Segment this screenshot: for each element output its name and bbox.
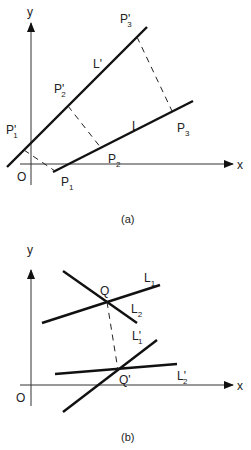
label-L1-prime: L'1 — [132, 329, 143, 346]
label-L1: L1 — [144, 271, 156, 288]
origin-label: O — [16, 391, 25, 405]
label-L: L — [132, 119, 139, 133]
label-P1-prime: P'1 — [6, 123, 18, 140]
label-L2-prime: L'2 — [177, 369, 188, 386]
figure: x y O L' L P1 P2 P3 P'1 P'2 P'3 (a) x y … — [0, 0, 251, 450]
label-L-prime: L' — [93, 57, 102, 71]
caption-b: (b) — [121, 431, 134, 443]
diagram-b: x y O L1 L2 L'1 L'2 Q Q' (b) — [16, 243, 243, 443]
label-Q-prime: Q' — [119, 373, 131, 387]
label-P1: P1 — [61, 175, 74, 192]
origin-label: O — [17, 170, 26, 184]
label-Q: Q — [100, 284, 109, 298]
x-axis-label: x — [237, 379, 243, 393]
label-P2-prime: P'2 — [54, 82, 66, 99]
connector-P1 — [24, 150, 55, 171]
label-P2: P2 — [108, 152, 121, 169]
label-P3: P3 — [177, 121, 190, 138]
connector-Q — [107, 302, 118, 370]
y-axis-label: y — [27, 5, 33, 19]
label-P3-prime: P'3 — [120, 12, 132, 29]
line-L-prime — [7, 27, 147, 167]
label-L2: L2 — [131, 302, 143, 319]
x-axis-label: x — [237, 158, 243, 172]
diagram-a: x y O L' L P1 P2 P3 P'1 P'2 P'3 (a) — [6, 5, 243, 225]
line-L — [53, 101, 193, 172]
y-axis-label: y — [27, 243, 33, 257]
connector-P2 — [68, 106, 101, 148]
line-L1-prime — [63, 340, 157, 412]
connector-P3 — [137, 37, 172, 111]
caption-a: (a) — [121, 213, 134, 225]
